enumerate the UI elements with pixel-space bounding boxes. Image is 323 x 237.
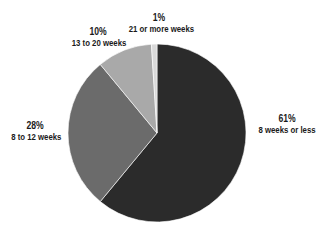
slice-category: 21 or more weeks bbox=[129, 23, 190, 35]
slice-label-13-to-20-weeks: 10% 13 to 20 weeks bbox=[72, 25, 124, 49]
slice-pct: 61% bbox=[258, 112, 315, 124]
slice-pct: 1% bbox=[129, 11, 190, 23]
slice-label-8-to-12-weeks: 28% 8 to 12 weeks bbox=[11, 119, 59, 143]
slice-label-8-weeks-or-less: 61% 8 weeks or less bbox=[258, 112, 315, 136]
slice-pct: 28% bbox=[11, 119, 59, 131]
slice-category: 8 weeks or less bbox=[258, 124, 315, 136]
slice-category: 8 to 12 weeks bbox=[11, 131, 59, 143]
slice-pct: 10% bbox=[72, 25, 124, 37]
slice-label-21-or-more-weeks: 1% 21 or more weeks bbox=[129, 11, 190, 35]
slice-category: 13 to 20 weeks bbox=[72, 37, 124, 49]
pie-chart: 61% 8 weeks or less 28% 8 to 12 weeks 10… bbox=[0, 0, 323, 237]
